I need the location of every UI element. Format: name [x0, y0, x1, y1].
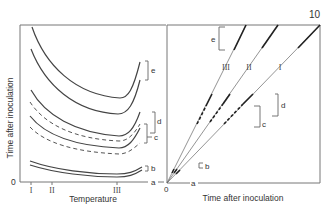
left-origin-label: 0	[11, 177, 16, 187]
tick-label-I: I	[30, 186, 33, 195]
page-number: 10	[309, 9, 321, 20]
line-II-phase-d	[223, 94, 230, 104]
line-label-III: III	[222, 63, 230, 72]
bracket-d	[150, 112, 155, 133]
line-I-phase-e	[298, 25, 320, 48]
line-I-phase-d	[243, 94, 253, 104]
line-III-phase-d	[207, 94, 212, 104]
bracket-c	[144, 124, 152, 143]
right-bracket-b	[199, 163, 203, 168]
figure-canvas: 10 Time after inoculation 0 I II III Tem…	[0, 0, 333, 213]
curve-b-lower	[30, 165, 142, 177]
curve-c-upper	[30, 116, 140, 148]
right-panel: 0 Time after inoculation III II I e d c …	[164, 25, 320, 203]
curve-e-upper	[32, 27, 140, 98]
line-II-phase-e	[262, 25, 278, 48]
right-x-axis-label: Time after inoculation	[203, 193, 284, 203]
right-phase-label-a: a	[191, 179, 196, 188]
right-phase-label-b: b	[205, 162, 210, 171]
right-bracket-d	[272, 94, 278, 116]
bracket-b	[145, 166, 148, 171]
line-label-II: II	[246, 63, 252, 72]
phase-label-b: b	[151, 164, 156, 173]
right-bracket-e	[219, 27, 225, 50]
left-y-axis-label: Time after inoculation	[5, 77, 15, 158]
left-panel: Time after inoculation 0 I II III Temper…	[5, 25, 166, 204]
line-III-phase-c	[197, 104, 207, 124]
right-origin-label: 0	[164, 185, 169, 194]
bracket-e	[145, 61, 148, 80]
curve-e-lower	[31, 49, 140, 114]
phase-label-e: e	[151, 66, 156, 75]
right-phase-label-e: e	[211, 35, 216, 44]
phase-label-d: d	[157, 117, 161, 126]
right-phase-label-c: c	[262, 120, 266, 129]
phase-label-c: c	[154, 133, 158, 142]
line-label-I: I	[279, 63, 282, 72]
phase-label-a: a	[151, 178, 156, 187]
left-x-axis-label: Temperature	[69, 194, 117, 204]
right-bracket-c	[254, 106, 260, 127]
line-III-phase-e	[234, 25, 246, 50]
curve-b-upper	[30, 161, 142, 174]
right-phase-label-d: d	[281, 101, 285, 110]
tick-label-II: II	[49, 186, 55, 195]
